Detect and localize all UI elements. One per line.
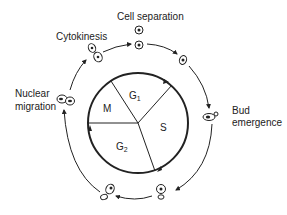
cell-separated-bottom	[135, 41, 143, 49]
arrow-to-bud-emergence	[189, 66, 209, 108]
arrow-to-cytokinesis	[70, 60, 86, 90]
arrow-bottom	[116, 196, 152, 199]
label-nuclear-migration-1: Nuclear	[15, 88, 50, 99]
phase-label-g2: G2	[116, 141, 128, 153]
divider-g1-m	[111, 81, 138, 123]
cell-cytokinesis	[87, 42, 104, 63]
cell-separated-top	[135, 26, 143, 34]
arrow-to-large-bud	[176, 124, 212, 190]
cell-unbudded	[178, 55, 188, 66]
cell-cycle-diagram: G1 M S G2	[0, 0, 287, 215]
arrow-to-separation	[103, 44, 131, 52]
cell-bud-emergence	[203, 112, 218, 121]
phase-wheel: G1 M S G2	[88, 73, 188, 173]
divider-g1-s	[138, 85, 172, 123]
arrow-to-nuclear-migration	[64, 110, 100, 192]
arrow-separation-to-g1cell	[147, 44, 177, 54]
phase-label-s: S	[160, 122, 167, 133]
cells	[57, 26, 218, 201]
cell-nuclear-migration	[57, 95, 75, 105]
label-nuclear-migration-2: migration	[15, 101, 56, 112]
label-cytokinesis: Cytokinesis	[56, 31, 107, 42]
phase-label-m: M	[103, 103, 111, 114]
label-bud-emergence-2: emergence	[232, 117, 282, 128]
divider-s-g2	[138, 123, 155, 171]
label-bud-emergence-1: Bud	[232, 105, 250, 116]
label-cell-separation: Cell separation	[117, 11, 184, 22]
cell-growing-bud	[157, 185, 166, 200]
phase-label-g1: G1	[129, 90, 141, 102]
outer-cycle-arrows	[64, 44, 212, 199]
cell-large-bud	[100, 183, 116, 201]
